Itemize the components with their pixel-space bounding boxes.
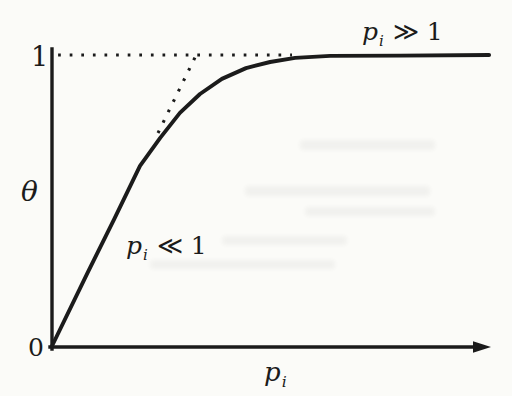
series-initial-slope-tangent xyxy=(158,57,195,133)
y-axis-label-theta: θ xyxy=(21,178,38,206)
x-axis-label-subscript: i xyxy=(282,373,287,391)
annotation-low-pressure-base: p xyxy=(126,231,142,260)
x-axis-label-pi: pi xyxy=(264,359,287,385)
annotation-high-pressure-relation: ≫ 1 xyxy=(393,16,443,45)
x-axis-arrowhead xyxy=(473,341,491,353)
figure-canvas: 1 0 θ pi pi≫ 1 pi≪ 1 xyxy=(0,0,512,396)
origin-tick-0: 0 xyxy=(28,335,44,360)
series-isotherm xyxy=(52,55,489,346)
annotation-low-pressure-relation: ≪ 1 xyxy=(157,231,207,260)
annotation-high-pressure: pi≫ 1 xyxy=(362,18,443,43)
series-group xyxy=(52,55,489,346)
annotation-high-pressure-base: p xyxy=(362,16,378,45)
annotation-high-pressure-subscript: i xyxy=(379,31,384,49)
y-tick-1: 1 xyxy=(31,43,48,70)
isotherm-plot xyxy=(0,0,512,396)
annotation-low-pressure: pi≪ 1 xyxy=(126,233,207,258)
annotation-low-pressure-subscript: i xyxy=(143,246,148,264)
x-axis-label-base: p xyxy=(264,357,281,387)
